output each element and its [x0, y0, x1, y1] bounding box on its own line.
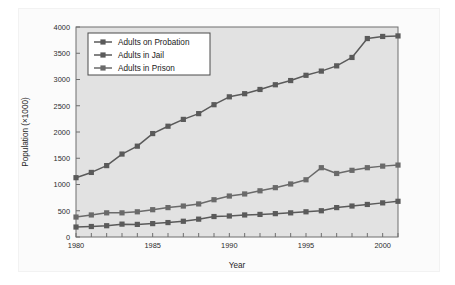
series-marker	[257, 212, 262, 217]
series-marker	[303, 73, 308, 78]
series-marker	[227, 94, 232, 99]
y-tick-label: 3500	[54, 49, 70, 58]
x-axis-title: Year	[229, 261, 246, 270]
x-tick-label: 1985	[144, 241, 160, 250]
series-marker	[380, 200, 385, 205]
series-marker	[165, 220, 170, 225]
series-marker	[150, 207, 155, 212]
series-marker	[242, 191, 247, 196]
y-tick-label: 4000	[54, 23, 70, 32]
series-marker	[242, 212, 247, 217]
y-tick-label: 2500	[54, 102, 70, 111]
y-tick-label: 2000	[54, 128, 70, 137]
series-marker	[395, 162, 400, 167]
series-marker	[211, 102, 216, 107]
series-marker	[319, 69, 324, 74]
series-marker	[273, 82, 278, 87]
legend-swatch-marker	[100, 39, 105, 44]
series-marker	[211, 197, 216, 202]
series-marker	[165, 124, 170, 129]
series-marker	[334, 63, 339, 68]
chart-legend: Adults on ProbationAdults in JailAdults …	[88, 33, 210, 75]
y-tick-label: 1500	[54, 154, 70, 163]
series-marker	[303, 209, 308, 214]
x-tick-label: 1990	[221, 241, 237, 250]
series-marker	[365, 202, 370, 207]
series-marker	[89, 170, 94, 175]
legend-label: Adults in Prison	[118, 64, 175, 73]
series-marker	[211, 214, 216, 219]
series-marker	[380, 34, 385, 39]
series-marker	[135, 144, 140, 149]
x-tick-label: 2000	[374, 241, 390, 250]
series-marker	[150, 221, 155, 226]
series-marker	[181, 203, 186, 208]
series-marker	[288, 210, 293, 215]
series-marker	[73, 214, 78, 219]
series-marker	[150, 131, 155, 136]
series-marker	[181, 117, 186, 122]
series-marker	[89, 224, 94, 229]
x-tick-label: 1980	[68, 241, 84, 250]
series-marker	[227, 213, 232, 218]
series-marker	[196, 111, 201, 116]
series-marker	[257, 87, 262, 92]
series-marker	[273, 211, 278, 216]
series-marker	[73, 175, 78, 180]
legend-swatch-marker	[100, 52, 105, 57]
x-axis-tick-labels: 19801985199019952000	[68, 241, 391, 250]
y-axis-title: Population (×1000)	[21, 97, 30, 167]
series-marker	[196, 201, 201, 206]
series-marker	[104, 210, 109, 215]
series-marker	[319, 165, 324, 170]
series-marker	[334, 205, 339, 210]
series-marker	[104, 163, 109, 168]
series-marker	[242, 91, 247, 96]
series-marker	[395, 199, 400, 204]
x-tick-label: 1995	[298, 241, 314, 250]
series-marker	[334, 171, 339, 176]
series-marker	[380, 164, 385, 169]
legend-label: Adults in Jail	[118, 51, 164, 60]
line-chart-figure: 05001000150020002500300035004000 1980198…	[0, 0, 455, 285]
series-marker	[165, 205, 170, 210]
series-marker	[135, 209, 140, 214]
legend-label: Adults on Probation	[118, 38, 190, 47]
series-marker	[73, 224, 78, 229]
series-marker	[135, 222, 140, 227]
series-marker	[365, 165, 370, 170]
series-marker	[288, 78, 293, 83]
series-marker	[349, 55, 354, 60]
series-marker	[349, 203, 354, 208]
series-marker	[303, 177, 308, 182]
series-marker	[257, 188, 262, 193]
series-marker	[119, 222, 124, 227]
series-marker	[119, 151, 124, 156]
series-marker	[119, 210, 124, 215]
series-marker	[196, 217, 201, 222]
legend-swatch-marker	[100, 65, 105, 70]
y-tick-label: 3000	[54, 75, 70, 84]
series-marker	[349, 168, 354, 173]
series-marker	[273, 185, 278, 190]
y-tick-label: 500	[58, 207, 70, 216]
figure-page: 05001000150020002500300035004000 1980198…	[0, 0, 455, 285]
series-marker	[104, 223, 109, 228]
y-axis-tick-labels: 05001000150020002500300035004000	[54, 23, 70, 242]
series-marker	[395, 33, 400, 38]
series-marker	[365, 36, 370, 41]
series-marker	[89, 212, 94, 217]
series-marker	[181, 219, 186, 224]
y-tick-label: 1000	[54, 180, 70, 189]
series-marker	[288, 181, 293, 186]
series-marker	[227, 193, 232, 198]
series-marker	[319, 208, 324, 213]
